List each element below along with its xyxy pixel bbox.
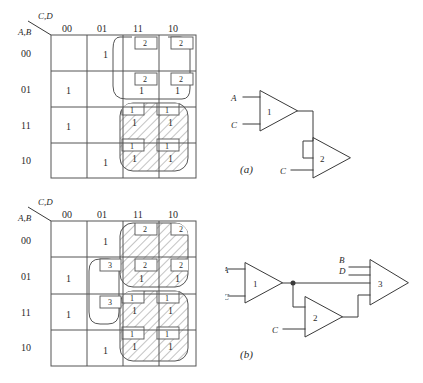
gate-3-shape	[370, 260, 408, 305]
kmap-b-tag-r1c3: 2	[179, 261, 183, 270]
circuit-a-gate-1-number: 1	[267, 107, 272, 117]
kmap-b-col-header-0: 00	[62, 209, 72, 220]
kmap-b-tag-r2c3: 1	[165, 294, 169, 303]
circuit-b-caption: (b)	[240, 348, 253, 360]
circuit-b-label-c2: C	[272, 325, 279, 335]
kmap-a-tag-r1c2: 2	[143, 75, 147, 84]
corner-diagonal	[28, 21, 51, 35]
circuit-a-svg: A C C 1 2	[225, 78, 415, 188]
axis-top-label: C,D	[38, 197, 53, 207]
circuit-b-container: A C C B D 1 2 3	[225, 250, 420, 360]
axis-top-label: C,D	[38, 11, 53, 21]
kmap-b-tag-r3c3: 1	[165, 330, 169, 339]
kmap-a-tag-r1c3: 2	[179, 75, 183, 84]
gate-2-shape	[305, 297, 342, 337]
kmap-a-cell-r2c2: 1	[132, 117, 137, 128]
gate-2-output-wire	[342, 295, 370, 317]
circuit-a-label-a: A	[230, 93, 237, 103]
kmap-a-cell-r3c2: 1	[132, 153, 137, 164]
kmap-a-cell-r1c2: 1	[139, 85, 144, 96]
kmap-a-tag-r2c2: 1	[130, 106, 134, 115]
gate-1-shape	[260, 91, 297, 131]
kmap-b-tag-r0c3: 2	[179, 225, 183, 234]
wire-junction-dot	[291, 281, 296, 286]
kmap-a-tag-r3c2: 1	[130, 142, 134, 151]
kmap-a-tag-r0c3: 2	[179, 39, 183, 48]
kmap-a-cell-r0c1: 1	[103, 49, 108, 60]
gate-1-branch-wire	[293, 283, 305, 307]
circuit-a-container: A C C 1 2	[225, 78, 415, 188]
kmap-b-row-header-1: 01	[21, 271, 31, 282]
kmap-a-row-header-3: 10	[21, 155, 31, 166]
kmap-a-cell-r1c3: 1	[175, 85, 180, 96]
kmap-b-container: C,D A,B 00 01 11 10 00 01 11 10	[8, 190, 208, 375]
circuit-b-gate-2-number: 2	[313, 313, 318, 323]
circuit-a-gate-2-number: 2	[320, 154, 325, 164]
kmap-a-col-header-0: 00	[62, 23, 72, 34]
kmap-a-tag-r2c3: 1	[165, 106, 169, 115]
kmap-a-row-header-2: 11	[21, 120, 31, 131]
axis-left-label: A,B	[17, 27, 32, 37]
circuit-b-gate-1-number: 1	[253, 279, 258, 289]
kmap-a-row-header-1: 01	[21, 84, 31, 95]
kmap-a-cell-r3c3: 1	[168, 153, 173, 164]
gate-1-output-wire	[297, 111, 313, 158]
kmap-b-row-header-0: 00	[21, 235, 31, 246]
axis-left-label: A,B	[17, 213, 32, 223]
kmap-b-tag-r2c1: 3	[108, 298, 112, 307]
corner-diagonal	[28, 207, 51, 221]
kmap-b-tag-r0c2: 2	[143, 225, 147, 234]
circuit-b-label-d: D	[338, 266, 346, 276]
kmap-b-cell-r2c0: 1	[66, 309, 71, 320]
kmap-a-col-header-1: 01	[97, 23, 107, 34]
circuit-a-caption: (a)	[240, 163, 253, 175]
kmap-a-cell-r3c1: 1	[103, 157, 108, 168]
kmap-b-cell-r3c3: 1	[168, 341, 173, 352]
kmap-b-cell-r1c2: 1	[139, 273, 144, 284]
kmap-b-row-header-3: 10	[21, 342, 31, 353]
kmap-a-tag-r3c3: 1	[165, 142, 169, 151]
circuit-b-gate-3-number: 3	[378, 279, 383, 289]
circuit-b-label-a: A	[225, 265, 229, 275]
kmap-b-tag-r2c2: 1	[130, 294, 134, 303]
kmap-a-svg: C,D A,B 00 01 11 10 00 01 11 10	[8, 4, 208, 184]
kmap-a-col-header-3: 10	[168, 23, 178, 34]
kmap-a-cell-r2c0: 1	[66, 121, 71, 132]
kmap-b-cell-r0c1: 1	[103, 236, 108, 247]
kmap-b-cell-r1c0: 1	[66, 273, 71, 284]
kmap-a-cell-r1c0: 1	[66, 85, 71, 96]
circuit-b-label-b: B	[339, 255, 345, 265]
kmap-b-cell-r1c3: 1	[175, 273, 180, 284]
kmap-a-col-header-2: 11	[133, 23, 143, 34]
circuit-b-label-c1: C	[225, 292, 230, 302]
kmap-b-row-header-2: 11	[21, 307, 31, 318]
kmap-b-cell-r3c1: 1	[103, 345, 108, 356]
gate-2-shape	[313, 138, 350, 178]
kmap-b-col-header-2: 11	[133, 209, 143, 220]
kmap-b-cell-r3c2: 1	[132, 341, 137, 352]
circuit-a-label-c1: C	[231, 120, 238, 130]
kmap-a-row-header-0: 00	[21, 48, 31, 59]
kmap-b-tag-r3c2: 1	[130, 330, 134, 339]
kmap-a-container: C,D A,B 00 01 11 10 00 01 11 10	[8, 4, 208, 184]
kmap-a-tag-r0c2: 2	[143, 39, 147, 48]
kmap-b-col-header-3: 10	[168, 209, 178, 220]
circuit-b-svg: A C C B D 1 2 3	[225, 250, 420, 360]
kmap-b-col-header-1: 01	[97, 209, 107, 220]
kmap-b-tag-r1c1: 3	[108, 261, 112, 270]
kmap-b-cell-r2c3: 1	[168, 305, 173, 316]
kmap-b-cell-r2c2: 1	[132, 305, 137, 316]
kmap-b-svg: C,D A,B 00 01 11 10 00 01 11 10	[8, 190, 208, 375]
gate-1-shape	[245, 263, 282, 303]
kmap-b-tag-r1c2: 2	[143, 261, 147, 270]
circuit-a-label-c2: C	[280, 166, 287, 176]
kmap-a-cell-r2c3: 1	[168, 117, 173, 128]
